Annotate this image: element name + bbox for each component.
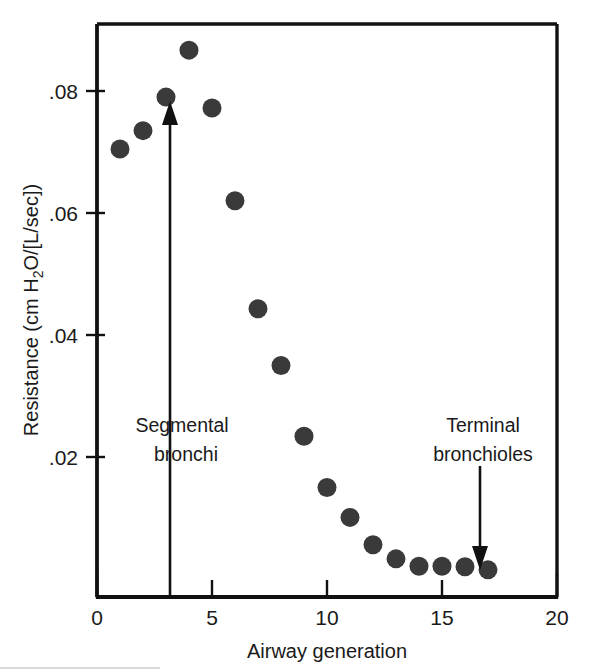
y-tick-label-02: .02	[49, 446, 78, 469]
data-point	[226, 191, 245, 210]
figure-container: .08 .06 .04 .02 0 5 10 15 20 Airway gene…	[0, 0, 606, 671]
y-tick-label-04: .04	[49, 324, 79, 347]
annotation-terminal-bronchioles: Terminal bronchioles	[433, 414, 533, 570]
data-point	[456, 557, 475, 576]
data-point	[318, 478, 337, 497]
y-axis-title-pre: Resistance (cm H	[20, 278, 42, 436]
data-point	[249, 299, 268, 318]
y-axis-title-subscript: 2	[30, 270, 46, 278]
y-tick-label-06: .06	[49, 202, 78, 225]
data-point	[295, 427, 314, 446]
data-point	[180, 41, 199, 60]
segmental-bronchi-label-line2: bronchi	[154, 443, 218, 465]
data-point	[387, 549, 406, 568]
data-point	[203, 99, 222, 118]
segmental-bronchi-label-line1: Segmental	[135, 414, 228, 436]
data-point	[410, 557, 429, 576]
terminal-bronchioles-label-line1: Terminal	[446, 414, 520, 436]
data-point	[341, 508, 360, 527]
data-point	[134, 121, 153, 140]
svg-text:Resistance (cm H2O/[L/sec]): Resistance (cm H2O/[L/sec])	[20, 184, 46, 436]
data-point	[111, 139, 130, 158]
resistance-vs-generation-scatter-plot: .08 .06 .04 .02 0 5 10 15 20 Airway gene…	[0, 0, 606, 671]
x-tick-label-0: 0	[91, 606, 103, 629]
x-tick-label-15: 15	[430, 606, 453, 629]
x-tick-label-10: 10	[315, 606, 338, 629]
plot-axes-frame	[97, 24, 557, 597]
data-point	[433, 557, 452, 576]
y-axis-title-post: O/[L/sec])	[20, 184, 42, 271]
y-tick-label-08: .08	[49, 80, 78, 103]
data-point	[272, 356, 291, 375]
x-tick-label-5: 5	[206, 606, 218, 629]
data-point	[364, 535, 383, 554]
terminal-bronchioles-label-line2: bronchioles	[433, 443, 533, 465]
x-tick-label-20: 20	[545, 606, 568, 629]
annotation-segmental-bronchi: Segmental bronchi	[135, 101, 228, 597]
x-axis-title: Airway generation	[247, 640, 407, 662]
data-point	[157, 88, 176, 107]
y-axis-title: Resistance (cm H2O/[L/sec])	[20, 184, 46, 436]
y-axis-tick-labels: .08 .06 .04 .02	[49, 80, 79, 469]
x-axis-tick-labels: 0 5 10 15 20	[91, 606, 569, 629]
